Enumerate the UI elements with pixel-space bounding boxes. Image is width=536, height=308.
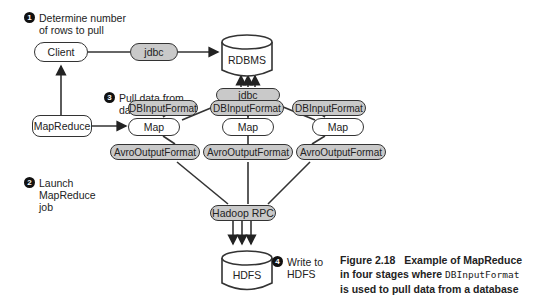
avrooutputformat-node-3: AvroOutputFormat	[296, 144, 386, 160]
jdbc-top-node: jdbc	[130, 43, 178, 61]
figure-label: Figure 2.18	[340, 254, 395, 266]
hdfs-label: HDFS	[222, 263, 272, 287]
avrooutputformat-node-1: AvroOutputFormat	[110, 144, 200, 160]
rdbms-label: RDBMS	[222, 48, 272, 72]
map-node-1: Map	[128, 118, 180, 136]
map-node-2: Map	[222, 118, 274, 136]
step-4-note: 4Write to HDFS	[272, 256, 323, 280]
step-2-note: 2Launch MapReduce job	[24, 177, 96, 213]
code-dbinputformat: DBInputFormat	[445, 269, 519, 280]
step-number-4: 4	[272, 256, 283, 267]
figure-caption: Figure 2.18 Example of MapReduce in four…	[340, 253, 536, 296]
client-node: Client	[34, 42, 88, 62]
dbinputformat-node-1: DBInputFormat	[128, 100, 198, 116]
dbinputformat-node-2: DBInputFormat	[210, 100, 284, 116]
hadoop-rpc-node: Hadoop RPC	[210, 205, 276, 221]
mapreduce-node: MapReduce	[32, 115, 92, 137]
avrooutputformat-node-2: AvroOutputFormat	[203, 144, 293, 160]
step-number-1: 1	[24, 12, 35, 23]
step-1-note: 1Determine number of rows to pull	[24, 12, 126, 36]
dbinputformat-node-3: DBInputFormat	[292, 100, 366, 116]
step-number-3: 3	[104, 92, 115, 103]
map-node-3: Map	[312, 118, 364, 136]
step-number-2: 2	[24, 177, 35, 188]
